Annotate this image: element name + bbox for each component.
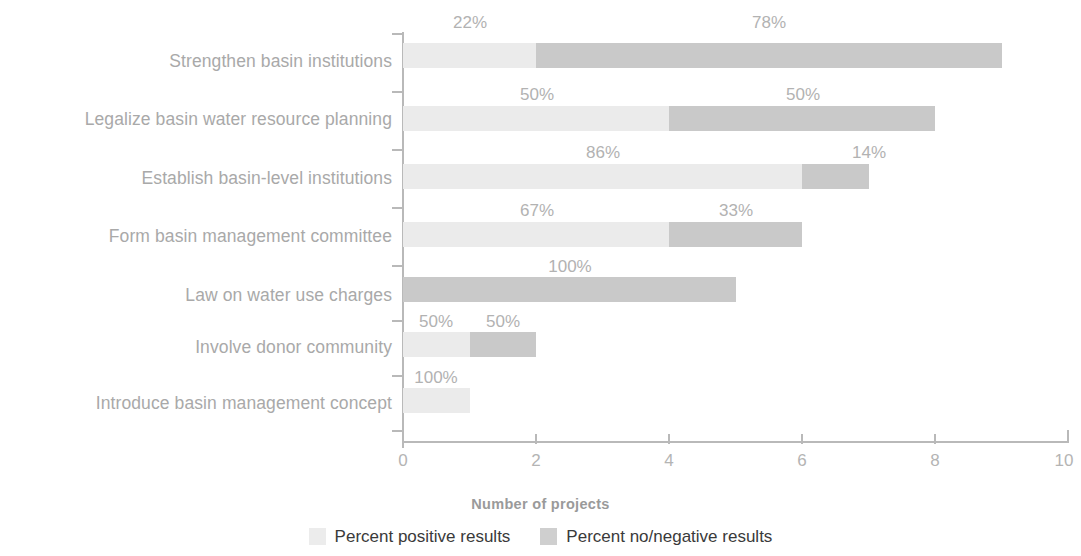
percent-label-positive-2: 86% <box>543 144 663 161</box>
bar-row-4 <box>403 277 736 302</box>
bar-row-1 <box>403 106 935 131</box>
x-axis-tick-2 <box>535 434 537 444</box>
category-label-6: Introduce basin management concept <box>0 395 392 413</box>
bar-segment-positive-3 <box>403 222 669 247</box>
legend-label-positive: Percent positive results <box>335 528 511 545</box>
x-axis-tick-10 <box>1067 430 1069 442</box>
bar-row-6 <box>403 388 470 413</box>
x-axis-tick-label-3: 6 <box>782 452 822 469</box>
bar-segment-negative-4 <box>403 277 736 302</box>
bar-row-5 <box>403 332 536 357</box>
bar-segment-negative-3 <box>669 222 802 247</box>
category-label-4: Law on water use charges <box>0 287 392 305</box>
bar-segment-positive-5 <box>403 332 470 357</box>
x-axis-tick-label-5: 10 <box>1044 452 1081 469</box>
percent-label-negative-2: 14% <box>809 144 929 161</box>
percent-label-negative-1: 50% <box>743 86 863 103</box>
x-axis-tick-4 <box>668 434 670 444</box>
bar-row-0 <box>403 43 1002 68</box>
bar-segment-negative-0 <box>536 43 1002 68</box>
legend-item-positive: Percent positive results <box>309 528 511 545</box>
percent-label-positive-3: 67% <box>477 202 597 219</box>
category-label-1: Legalize basin water resource planning <box>0 111 392 129</box>
y-axis-tick-2 <box>392 149 403 151</box>
bar-segment-negative-2 <box>802 164 869 189</box>
x-axis-tick-6 <box>801 434 803 444</box>
x-axis-tick-label-1: 2 <box>516 452 556 469</box>
category-label-0: Strengthen basin institutions <box>0 53 392 71</box>
chart-legend: Percent positive results Percent no/nega… <box>0 528 1081 545</box>
x-axis-tick-0 <box>402 434 404 448</box>
bar-row-3 <box>403 222 802 247</box>
category-label-3: Form basin management committee <box>0 228 392 246</box>
legend-swatch-positive-icon <box>309 528 326 545</box>
bar-segment-negative-1 <box>669 106 935 131</box>
stacked-bar-chart: Strengthen basin institutions Legalize b… <box>0 0 1081 556</box>
percent-label-negative-5: 50% <box>443 313 563 330</box>
bar-segment-positive-6 <box>403 388 470 413</box>
x-axis-line <box>403 441 1069 443</box>
legend-swatch-negative-icon <box>540 528 557 545</box>
y-axis-tick-7 <box>392 430 403 432</box>
legend-label-negative: Percent no/negative results <box>566 528 772 545</box>
bar-segment-positive-1 <box>403 106 669 131</box>
y-axis-tick-0 <box>392 33 403 35</box>
percent-label-negative-0: 78% <box>709 14 829 31</box>
x-axis-tick-label-4: 8 <box>915 452 955 469</box>
percent-label-positive-6: 100% <box>376 369 496 386</box>
legend-item-negative: Percent no/negative results <box>540 528 772 545</box>
percent-label-positive-0: 22% <box>410 14 530 31</box>
bar-segment-positive-2 <box>403 164 802 189</box>
percent-label-negative-4: 100% <box>510 258 630 275</box>
percent-label-positive-1: 50% <box>477 86 597 103</box>
bar-row-2 <box>403 164 869 189</box>
y-axis-tick-4 <box>392 265 403 267</box>
bar-segment-positive-0 <box>403 43 536 68</box>
x-axis-title: Number of projects <box>0 496 1081 512</box>
percent-label-negative-3: 33% <box>676 202 796 219</box>
category-label-2: Establish basin-level institutions <box>0 170 392 188</box>
x-axis-tick-8 <box>934 434 936 444</box>
y-axis-tick-1 <box>392 91 403 93</box>
bar-segment-negative-5 <box>470 332 536 357</box>
y-axis-tick-3 <box>392 207 403 209</box>
x-axis-tick-label-0: 0 <box>383 452 423 469</box>
category-label-5: Involve donor community <box>0 339 392 357</box>
x-axis-tick-label-2: 4 <box>649 452 689 469</box>
